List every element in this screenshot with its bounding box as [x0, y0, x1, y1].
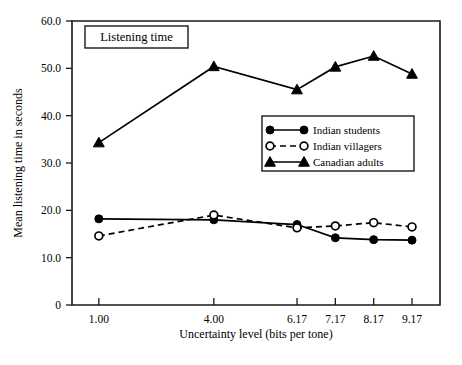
- data-point: [407, 69, 418, 79]
- data-point: [408, 236, 416, 244]
- series-line-2: [99, 215, 412, 236]
- x-axis-tick-label: 6.17: [287, 313, 307, 325]
- x-axis-tick-label: 8.17: [364, 313, 384, 325]
- y-axis-tick-group: 010.020.030.040.050.060.0: [41, 15, 72, 311]
- data-point: [95, 215, 103, 223]
- data-point: [408, 223, 416, 231]
- chart-title-box: Listening time: [85, 26, 188, 48]
- legend-marker: [300, 126, 308, 134]
- x-axis-tick-label: 9.17: [402, 313, 422, 325]
- data-point: [293, 224, 301, 232]
- y-axis-tick-label: 10.0: [41, 252, 61, 264]
- data-point: [208, 61, 219, 71]
- data-point: [210, 211, 218, 219]
- x-axis-title: Uncertainty level (bits per tone): [179, 327, 332, 341]
- chart-legend: Indian studentsIndian villagersCanadian …: [262, 116, 414, 171]
- y-axis-tick-label: 30.0: [41, 157, 61, 169]
- legend-label-1: Indian students: [313, 124, 380, 136]
- chart-figure: 010.020.030.040.050.060.0 1.004.006.177.…: [0, 0, 462, 365]
- legend-label-2: Indian villagers: [313, 140, 382, 152]
- legend-marker: [266, 126, 274, 134]
- y-axis-tick-label: 50.0: [41, 62, 61, 74]
- data-point: [331, 222, 339, 230]
- x-axis-tick-group: 1.004.006.177.178.179.17: [89, 298, 423, 325]
- y-axis-title: Mean listening time in seconds: [11, 88, 25, 238]
- data-point: [95, 232, 103, 240]
- y-axis-tick-label: 20.0: [41, 204, 61, 216]
- series-2: [95, 211, 416, 240]
- y-axis-tick-label: 60.0: [41, 15, 61, 27]
- legend-label-3: Canadian adults: [313, 156, 384, 168]
- x-axis-tick-label: 4.00: [204, 313, 224, 325]
- data-point: [331, 234, 339, 242]
- chart-canvas: 010.020.030.040.050.060.0 1.004.006.177.…: [0, 0, 462, 365]
- y-axis-tick-label: 40.0: [41, 110, 61, 122]
- x-axis-tick-label: 1.00: [89, 313, 109, 325]
- data-point: [93, 137, 104, 147]
- data-point: [370, 219, 378, 227]
- series-line-1: [99, 219, 412, 240]
- data-point: [368, 51, 379, 61]
- legend-marker: [300, 142, 308, 150]
- data-point: [370, 236, 378, 244]
- legend-marker: [266, 142, 274, 150]
- chart-title: Listening time: [100, 30, 173, 44]
- y-axis-tick-label: 0: [55, 299, 61, 311]
- x-axis-tick-label: 7.17: [325, 313, 345, 325]
- series-1: [95, 215, 416, 244]
